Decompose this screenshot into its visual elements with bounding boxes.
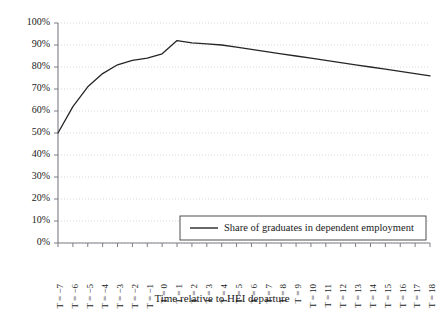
- y-tick-label: 40%: [32, 148, 50, 159]
- y-tick-label: 100%: [27, 16, 50, 27]
- x-tick-label: T = 13: [353, 284, 363, 308]
- x-tick-label: T = 15: [383, 284, 393, 308]
- y-tick-label: 20%: [32, 192, 50, 203]
- x-tick-label: T = 14: [368, 284, 378, 308]
- y-tick-label: 0%: [37, 236, 50, 247]
- y-tick-label: 90%: [32, 38, 50, 49]
- y-tick-label: 70%: [32, 82, 50, 93]
- x-tick-label: T = 12: [338, 284, 348, 308]
- chart-background: [0, 0, 444, 320]
- x-tick-label: T = 18: [427, 284, 437, 308]
- chart-legend: Share of graduates in dependent employme…: [180, 216, 426, 240]
- x-axis-title: Time relative to HEI departure: [154, 292, 289, 304]
- chart-container: 0%10%20%30%40%50%60%70%80%90%100% T = −7…: [0, 0, 444, 320]
- x-tick-label: T = −3: [115, 284, 125, 309]
- y-tick-label: 60%: [32, 104, 50, 115]
- x-tick-label: T = −6: [70, 284, 80, 309]
- x-tick-label: T = 10: [308, 284, 318, 308]
- x-tick-label: T = −2: [130, 284, 140, 309]
- line-chart: 0%10%20%30%40%50%60%70%80%90%100% T = −7…: [0, 0, 444, 320]
- x-tick-label: T = 16: [398, 284, 408, 308]
- y-tick-label: 80%: [32, 60, 50, 71]
- x-tick-label: T = −4: [100, 284, 110, 309]
- x-tick-label: T = 11: [323, 284, 333, 308]
- x-tick-label: T = 9: [293, 284, 303, 304]
- y-tick-label: 10%: [32, 214, 50, 225]
- x-tick-label: T = −1: [145, 284, 155, 309]
- y-tick-label: 50%: [32, 126, 50, 137]
- x-tick-label: T = −5: [85, 284, 95, 309]
- x-tick-label: T = −7: [55, 284, 65, 309]
- y-tick-label: 30%: [32, 170, 50, 181]
- x-tick-label: T = 17: [412, 284, 422, 308]
- legend-label: Share of graduates in dependent employme…: [224, 222, 414, 233]
